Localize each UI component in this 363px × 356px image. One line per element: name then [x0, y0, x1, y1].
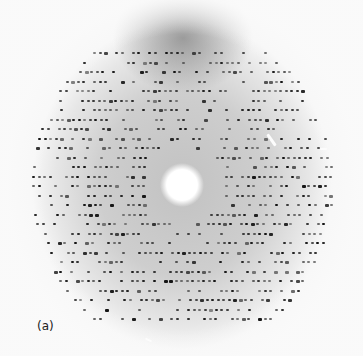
reflection-spot [226, 166, 229, 168]
reflection-spot [133, 214, 136, 216]
reflection-spot [178, 71, 181, 73]
reflection-spot [192, 261, 196, 264]
reflection-spot [98, 185, 101, 187]
reflection-spot [235, 280, 238, 282]
reflection-spot [227, 157, 230, 159]
reflection-spot [99, 318, 102, 320]
reflection-spot [163, 223, 166, 225]
reflection-spot [228, 71, 231, 73]
reflection-spot [62, 214, 65, 216]
reflection-spot [308, 233, 311, 235]
reflection-spot [309, 157, 312, 159]
reflection-spot [281, 309, 284, 311]
reflection-spot [254, 119, 257, 121]
reflection-spot [326, 157, 329, 159]
reflection-spot [122, 157, 125, 159]
reflection-spot [195, 128, 198, 130]
reflection-spot [135, 147, 138, 149]
reflection-spot [81, 90, 84, 92]
reflection-spot [66, 290, 69, 292]
reflection-spot [114, 100, 117, 102]
reflection-spot [115, 233, 119, 236]
reflection-spot [176, 81, 179, 83]
reflection-spot [251, 147, 254, 149]
reflection-spot [304, 157, 307, 159]
reflection-spot [83, 166, 86, 168]
reflection-spot [56, 119, 59, 121]
reflection-spot [87, 280, 90, 282]
reflection-spot [94, 204, 97, 206]
reflection-spot [49, 176, 52, 178]
reflection-spot [262, 223, 265, 225]
reflection-spot [320, 214, 323, 216]
reflection-spot [274, 261, 277, 263]
reflection-spot [223, 147, 226, 149]
reflection-spot [248, 309, 251, 311]
reflection-spot [264, 290, 267, 292]
reflection-spot [49, 138, 52, 140]
reflection-spot [132, 62, 135, 64]
reflection-spot [272, 128, 275, 130]
reflection-spot [81, 100, 84, 102]
reflection-spot [65, 176, 68, 178]
reflection-spot [257, 280, 260, 282]
reflection-spot [193, 252, 196, 254]
reflection-spot [87, 90, 90, 92]
reflection-spot [78, 214, 81, 216]
reflection-spot [280, 290, 283, 292]
reflection-spot [264, 166, 267, 168]
reflection-spot [274, 90, 277, 92]
reflection-spot [99, 81, 102, 83]
reflection-spot [96, 71, 99, 73]
reflection-spot [131, 280, 134, 282]
reflection-spot [233, 71, 237, 74]
reflection-spot [223, 223, 227, 226]
reflection-spot [289, 223, 292, 225]
reflection-spot [98, 100, 101, 102]
reflection-spot [36, 223, 39, 225]
reflection-spot [109, 100, 113, 103]
reflection-spot [144, 252, 147, 254]
reflection-spot [284, 147, 287, 149]
reflection-spot [308, 138, 311, 140]
reflection-spot [120, 261, 123, 263]
reflection-spot [228, 299, 231, 301]
reflection-spot [50, 204, 53, 206]
reflection-spot [87, 176, 90, 178]
reflection-spot [226, 309, 229, 311]
reflection-spot [159, 318, 163, 321]
reflection-spot [224, 271, 227, 273]
reflection-spot [43, 176, 46, 178]
reflection-spot [274, 176, 277, 178]
reflection-spot [297, 290, 300, 292]
reflection-spot [202, 271, 206, 274]
reflection-spot [77, 81, 80, 83]
reflection-spot [201, 128, 204, 130]
reflection-spot [44, 138, 47, 140]
reflection-spot [238, 214, 241, 216]
reflection-spot [224, 90, 227, 92]
reflection-spot [164, 109, 167, 111]
reflection-spot [302, 195, 305, 197]
reflection-spot [237, 309, 240, 311]
reflection-spot [275, 62, 278, 64]
reflection-spot [142, 271, 145, 273]
reflection-spot [50, 119, 53, 121]
reflection-spot [152, 147, 155, 149]
reflection-spot [311, 242, 314, 244]
reflection-spot [296, 280, 300, 283]
reflection-spot [195, 299, 198, 301]
reflection-spot [216, 214, 219, 216]
reflection-spot [115, 138, 118, 140]
reflection-spot [208, 280, 211, 282]
reflection-spot [72, 166, 75, 168]
reflection-spot [127, 62, 130, 64]
reflection-spot [218, 223, 221, 225]
reflection-spot [280, 176, 283, 178]
reflection-spot [89, 252, 92, 254]
reflection-spot [247, 138, 250, 140]
reflection-spot [104, 81, 107, 83]
reflection-spot [287, 214, 290, 216]
reflection-spot [247, 185, 250, 187]
reflection-spot [102, 128, 105, 130]
